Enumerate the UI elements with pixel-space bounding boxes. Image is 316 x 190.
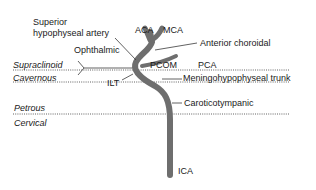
anterior-choroidal-label: Anterior choroidal xyxy=(200,38,271,48)
cavernous-segment-label: Cavernous xyxy=(13,73,57,83)
meningohypophyseal-label: Meningohypophyseal trunk xyxy=(183,73,291,83)
ica-vessel xyxy=(135,32,170,175)
mca-label: MCA xyxy=(163,25,183,35)
pcom-label: PCOM xyxy=(150,60,177,70)
superior-hypophyseal-label-line1: Superior xyxy=(33,17,67,27)
ilt-label: ILT xyxy=(107,78,119,88)
ophthalmic-label: Ophthalmic xyxy=(74,45,120,55)
caroticotympanic-label: Caroticotympanic xyxy=(184,98,254,108)
ilt-leader xyxy=(122,74,133,80)
cervical-segment-label: Cervical xyxy=(14,118,47,128)
petrous-segment-label: Petrous xyxy=(14,103,45,113)
ophthalmic-leader xyxy=(78,61,132,75)
anterior-choroidal-leader xyxy=(155,43,197,50)
ica-segments-diagram: Superior hypophyseal artery Ophthalmic A… xyxy=(0,0,316,190)
supraclinoid-segment-label: Supraclinoid xyxy=(13,60,63,70)
ica-label: ICA xyxy=(178,166,193,176)
pca-label: PCA xyxy=(198,60,217,70)
superior-hypophyseal-label-line2: hypophyseal artery xyxy=(33,28,109,38)
aca-label: ACA xyxy=(135,25,154,35)
